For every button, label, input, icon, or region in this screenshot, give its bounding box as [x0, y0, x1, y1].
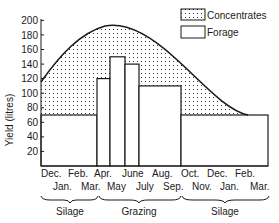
bar-apr — [97, 79, 110, 166]
x-label: Dec. — [41, 168, 62, 179]
x-label: Jan. — [53, 181, 72, 192]
y-tick: 40 — [27, 131, 39, 142]
brace-silage-1 — [41, 196, 98, 203]
legend-label-concentrates: Concentrates — [207, 10, 266, 21]
bar-silage-oct-mar — [181, 115, 268, 166]
legend-swatch-concentrates — [181, 9, 205, 20]
y-tick-labels: 200 180 160 140 120 100 80 60 40 20 — [21, 15, 38, 157]
period-braces — [41, 196, 269, 203]
legend-swatch-forage — [181, 26, 205, 38]
y-tick: 100 — [21, 88, 38, 99]
x-label: Apr. — [94, 168, 112, 179]
x-label: Mar. — [250, 181, 269, 192]
y-tick: 160 — [21, 44, 38, 55]
brace-silage-2 — [182, 196, 269, 203]
x-label: Oct. — [181, 168, 199, 179]
y-tick: 80 — [27, 102, 39, 113]
x-label: Mar. — [81, 181, 100, 192]
legend-label-forage: Forage — [207, 27, 239, 38]
x-label: Nov. — [192, 181, 212, 192]
y-tick: 140 — [21, 59, 38, 70]
x-label: Jan. — [220, 181, 239, 192]
period-label-grazing: Grazing — [121, 206, 156, 217]
x-label: Feb. — [68, 168, 88, 179]
brace-grazing — [99, 196, 181, 203]
y-tick: 180 — [21, 30, 38, 41]
y-tick: 200 — [21, 15, 38, 26]
x-label: July — [136, 181, 154, 192]
x-label: Feb. — [235, 168, 255, 179]
y-tick: 120 — [21, 73, 38, 84]
x-label: Dec. — [207, 168, 228, 179]
x-label: June — [122, 168, 144, 179]
period-labels: Silage Grazing Silage — [56, 206, 239, 217]
x-label: May — [107, 181, 126, 192]
x-label: Sep. — [163, 181, 184, 192]
yield-chart: 200 180 160 140 120 100 80 60 40 20 Yiel… — [0, 0, 279, 223]
x-labels-bottom: Jan. Mar. May July Sep. Nov. Jan. Mar. — [53, 181, 269, 192]
period-label-silage: Silage — [211, 206, 239, 217]
bar-may — [110, 57, 125, 166]
legend: Concentrates Forage — [181, 9, 266, 38]
y-axis-label: Yield (litres) — [4, 94, 15, 146]
bar-july-sep — [139, 86, 181, 166]
x-label: Aug. — [152, 168, 173, 179]
y-tick: 60 — [27, 117, 39, 128]
bar-june — [125, 64, 139, 166]
y-tick: 20 — [27, 146, 39, 157]
period-label-silage: Silage — [56, 206, 84, 217]
x-labels-top: Dec. Feb. Apr. June Aug. Oct. Dec. Feb. — [41, 168, 255, 179]
bar-silage-dec-mar — [41, 115, 97, 166]
